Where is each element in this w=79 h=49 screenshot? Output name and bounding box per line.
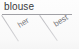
diagram-canvas: blouse her best xyxy=(0,0,79,49)
branch-line-left xyxy=(1,15,19,42)
branch-label-best: best xyxy=(52,13,70,29)
branch-label-her: her xyxy=(16,16,31,30)
head-word-blouse: blouse xyxy=(4,0,34,13)
